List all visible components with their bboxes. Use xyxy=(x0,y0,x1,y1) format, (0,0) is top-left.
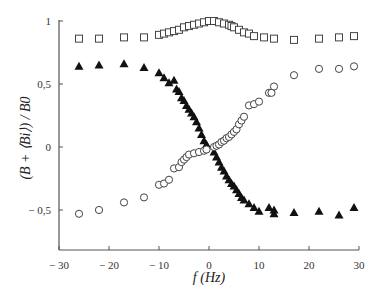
triangle-marker xyxy=(155,68,164,76)
circle-marker xyxy=(315,65,322,72)
y-tick-label: − 0,5 xyxy=(28,204,51,216)
square-marker xyxy=(76,35,83,42)
x-tick-label: − 20 xyxy=(99,259,119,271)
scatter-chart: − 30− 20− 100102030− 0,500,51 f (Hz) (B … xyxy=(0,0,380,297)
plot-area xyxy=(75,18,359,219)
circle-marker xyxy=(350,63,357,70)
circle-marker xyxy=(270,83,277,90)
y-axis-label: (B + ⟨Bi⟩) / B0 xyxy=(18,96,34,179)
square-marker xyxy=(271,35,278,42)
square-marker xyxy=(261,34,268,41)
x-axis-label: f (Hz) xyxy=(193,270,226,286)
circle-marker xyxy=(95,206,102,213)
square-marker xyxy=(336,34,343,41)
circle-marker xyxy=(140,194,147,201)
triangle-marker xyxy=(290,208,299,216)
square-marker xyxy=(96,35,103,42)
square-marker xyxy=(251,33,258,40)
y-tick-label: 0 xyxy=(46,141,52,153)
x-tick-label: 20 xyxy=(304,259,316,271)
triangle-marker xyxy=(350,203,359,211)
square-marker xyxy=(291,36,298,43)
triangle-marker xyxy=(95,61,104,69)
x-tick-label: − 10 xyxy=(149,259,169,271)
y-tick-label: 0,5 xyxy=(37,78,51,90)
circle-marker xyxy=(335,65,342,72)
axes: − 30− 20− 100102030− 0,500,51 xyxy=(28,15,365,271)
square-marker xyxy=(121,34,128,41)
y-tick-label: 1 xyxy=(46,15,52,27)
circle-marker xyxy=(203,146,210,153)
triangle-marker xyxy=(140,63,149,71)
square-marker xyxy=(351,33,358,40)
circle-marker xyxy=(290,72,297,79)
x-tick-label: 30 xyxy=(354,259,366,271)
triangle-marker xyxy=(120,59,129,67)
circle-marker xyxy=(120,199,127,206)
circle-marker xyxy=(255,98,262,105)
circle-marker xyxy=(165,176,172,183)
series-circle-open xyxy=(75,63,357,218)
triangle-marker xyxy=(170,76,179,84)
triangle-marker xyxy=(335,211,344,219)
x-tick-label: − 30 xyxy=(49,259,69,271)
series-square-open xyxy=(76,18,358,44)
series-triangle-filled xyxy=(75,59,359,218)
square-marker xyxy=(141,34,148,41)
triangle-marker xyxy=(75,62,84,70)
triangle-marker xyxy=(315,207,324,215)
circle-marker xyxy=(75,210,82,217)
x-tick-label: 10 xyxy=(254,259,266,271)
square-marker xyxy=(316,35,323,42)
circle-marker xyxy=(240,113,247,120)
